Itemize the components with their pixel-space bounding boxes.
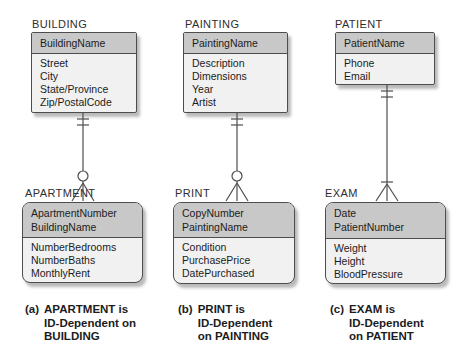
entity-patient-keys: PatientName [336,33,434,54]
attribute: Description [192,57,287,70]
caption-line: EXAM is [349,303,424,317]
caption-line: BUILDING [44,330,136,344]
entity-apartment-keys: ApartmentNumber BuildingName [23,203,142,238]
entity-patient-attributes: Phone Email [336,54,434,83]
attribute: NumberBedrooms [31,241,142,254]
optional-circle-icon [232,171,242,181]
caption-line: on PAINTING [198,330,273,344]
caption-c: (c) EXAM is ID-Dependent on PATIENT [330,303,424,344]
caption-marker: (c) [330,303,344,344]
attribute: City [40,70,136,83]
relationship-patient-exam [374,85,400,202]
attribute: State/Province [40,83,136,96]
key-attribute: ApartmentNumber [31,206,142,220]
entity-title-patient: PATIENT [335,18,383,30]
key-attribute: CopyNumber [182,206,294,220]
key-attribute: BuildingName [40,36,136,50]
entity-patient: PatientName Phone Email [335,32,435,85]
entity-print-attributes: Condition PurchasePrice DatePurchased [174,238,294,280]
attribute: Artist [192,96,287,109]
caption-marker: (a) [25,303,39,344]
optional-circle-icon [78,171,88,181]
key-attribute: BuildingName [31,220,142,234]
entity-apartment: ApartmentNumber BuildingName NumberBedro… [22,202,143,283]
key-attribute: PaintingName [182,220,294,234]
caption-line: ID-Dependent [198,317,273,331]
attribute: Street [40,57,136,70]
key-attribute: PatientName [344,36,434,50]
attribute: BloodPressure [334,268,445,281]
entity-title-apartment: APARTMENT [25,187,95,199]
caption-line: ID-Dependent on [44,317,136,331]
caption-b: (b) PRINT is ID-Dependent on PAINTING [178,303,272,344]
entity-exam-attributes: Weight Height BloodPressure [326,239,445,281]
entity-apartment-attributes: NumberBedrooms NumberBaths MonthlyRent [23,238,142,280]
entity-building-keys: BuildingName [32,33,136,54]
entity-title-print: PRINT [175,187,210,199]
attribute: Height [334,255,445,268]
attribute: MonthlyRent [31,267,142,280]
key-attribute: PaintingName [192,36,287,50]
entity-print-keys: CopyNumber PaintingName [174,203,294,238]
er-diagram: BUILDING BuildingName Street City State/… [0,0,463,357]
entity-exam: Date PatientNumber Weight Height BloodPr… [325,202,446,284]
entity-title-building: BUILDING [32,18,87,30]
attribute: Email [344,70,434,83]
caption-line: ID-Dependent [349,317,424,331]
entity-building: BuildingName Street City State/Province … [31,32,137,113]
entity-painting-keys: PaintingName [184,33,287,54]
entity-painting: PaintingName Description Dimensions Year… [183,32,288,113]
caption-line: on PATIENT [349,330,424,344]
entity-building-attributes: Street City State/Province Zip/PostalCod… [32,54,136,109]
entity-print: CopyNumber PaintingName Condition Purcha… [173,202,295,284]
attribute: DatePurchased [182,267,294,280]
caption-a: (a) APARTMENT is ID-Dependent on BUILDIN… [25,303,136,344]
attribute: PurchasePrice [182,254,294,267]
relationship-painting-print [224,113,250,202]
entity-painting-attributes: Description Dimensions Year Artist [184,54,287,109]
entity-title-painting: PAINTING [185,18,239,30]
attribute: Phone [344,57,434,70]
caption-marker: (b) [178,303,193,344]
entity-exam-keys: Date PatientNumber [326,203,445,239]
key-attribute: Date [334,206,445,220]
entity-title-exam: EXAM [325,187,358,199]
attribute: Zip/PostalCode [40,96,136,109]
attribute: Year [192,83,287,96]
attribute: Condition [182,241,294,254]
attribute: Dimensions [192,70,287,83]
key-attribute: PatientNumber [334,220,445,234]
caption-line: APARTMENT is [44,303,136,317]
caption-line: PRINT is [198,303,273,317]
crow-foot-icon [226,181,248,201]
attribute: NumberBaths [31,254,142,267]
attribute: Weight [334,242,445,255]
